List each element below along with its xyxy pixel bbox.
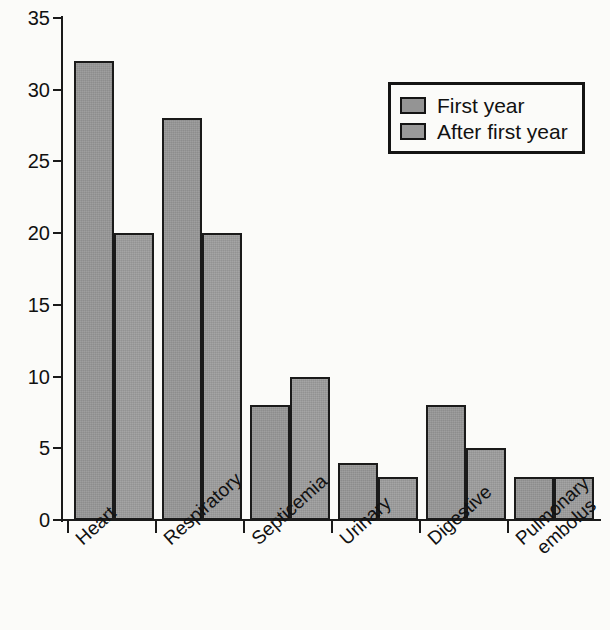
x-axis-tick — [155, 520, 157, 533]
chart-legend: First year After first year — [388, 82, 585, 154]
bar-chart: 05101520253035 HeartRespiratorySepticemi… — [0, 0, 610, 630]
y-axis-tick-label: 5 — [4, 438, 50, 458]
legend-label-first-year: First year — [437, 95, 525, 116]
legend-swatch-after-first-year — [400, 123, 426, 140]
bar — [114, 233, 154, 520]
y-axis-tick-label: 25 — [4, 151, 50, 171]
x-axis-tick — [419, 520, 421, 533]
bar — [74, 61, 114, 520]
x-axis-tick — [67, 520, 69, 533]
y-axis-tick-label: 10 — [4, 367, 50, 387]
y-axis-tick-label: 30 — [4, 80, 50, 100]
legend-item-after-first-year: After first year — [400, 118, 568, 144]
y-axis-tick-label: 0 — [4, 510, 50, 530]
legend-swatch-first-year — [400, 97, 426, 114]
x-axis-tick — [243, 520, 245, 533]
bar — [162, 118, 202, 520]
y-axis-tick-label: 35 — [4, 8, 50, 28]
x-axis-tick — [507, 520, 509, 533]
legend-item-first-year: First year — [400, 92, 568, 118]
y-axis-tick-label: 20 — [4, 223, 50, 243]
legend-label-after-first-year: After first year — [437, 121, 568, 142]
x-axis-tick — [331, 520, 333, 533]
y-axis-tick-label: 15 — [4, 295, 50, 315]
